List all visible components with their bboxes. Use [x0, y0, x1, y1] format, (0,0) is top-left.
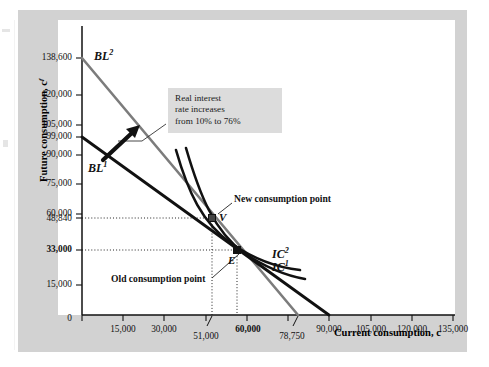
- callout-box: Real interest rate increases from 10% to…: [168, 88, 282, 133]
- y-axis-title-text: Future consumption, c: [38, 81, 49, 182]
- shift-arrow: [103, 125, 140, 160]
- y-tick-label-0: 0: [18, 313, 72, 323]
- curve-label-ic1-text: IC: [272, 260, 285, 274]
- curve-label-ic2-superscript: 2: [285, 246, 289, 255]
- chart-graphics: [0, 0, 489, 367]
- y-axis-ticks: [76, 58, 82, 285]
- curve-label-ic1-superscript: 1: [285, 259, 289, 268]
- note-old-consumption-point: Old consumption point: [111, 273, 205, 284]
- x-axis-ticks: [82, 315, 453, 321]
- point-label-e: E: [228, 254, 235, 266]
- curve-label-bl2-text: BL: [94, 49, 109, 63]
- x-axis-title: Current consumption, c: [334, 327, 441, 338]
- y-axis-title-superscript: f: [36, 79, 44, 81]
- x-tick-label-51000: 51,000: [183, 331, 229, 341]
- data-point-v: [209, 215, 216, 222]
- curve-label-bl1: BL1: [88, 160, 107, 176]
- callout-line-1: Real interest: [175, 93, 276, 104]
- point-label-v: V: [219, 211, 226, 223]
- x-tick-label-15000: 15,000: [100, 324, 146, 334]
- y-tick-label-33000: 33,000: [18, 244, 72, 254]
- x-axis-title-text: Current consumption, c: [334, 327, 441, 338]
- leader-78750: [293, 316, 298, 326]
- y-tick-label-48840: 48,840: [18, 213, 72, 223]
- y-axis-title: Future consumption, cf: [36, 79, 49, 182]
- budget-line-bl1: [82, 137, 329, 315]
- callout-line-2: rate increases: [175, 104, 276, 115]
- curve-label-ic1: IC1: [272, 259, 289, 275]
- curve-label-bl2: BL2: [94, 48, 113, 64]
- data-point-e: [234, 247, 241, 254]
- curve-label-bl1-superscript: 1: [103, 160, 107, 169]
- leader-51000: [207, 316, 212, 326]
- curve-label-bl1-text: BL: [88, 161, 103, 175]
- figure-page: 138,600 120,000 105,000 99,000 90,000 75…: [0, 0, 489, 367]
- x-tick-label-60000: 60,000: [225, 324, 271, 334]
- x-tick-label-30000: 30,000: [141, 324, 187, 334]
- curve-label-bl2-superscript: 2: [109, 48, 113, 57]
- note-new-consumption-point: New consumption point: [234, 193, 331, 204]
- callout-line-3: from 10% to 76%: [175, 116, 276, 127]
- y-tick-label-15000: 15,000: [18, 279, 72, 289]
- y-tick-label-138600: 138,600: [18, 52, 72, 62]
